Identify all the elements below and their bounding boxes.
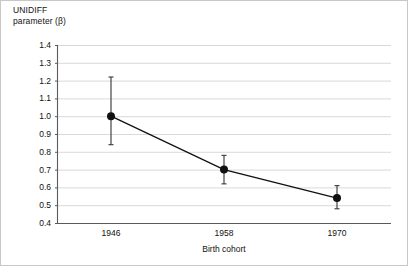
x-axis-title: Birth cohort (202, 244, 246, 254)
y-tick-label: 1.2 (39, 76, 51, 86)
y-tick-label: 0.6 (39, 182, 51, 192)
x-tick-label: 1970 (328, 228, 347, 238)
y-tick-label: 0.5 (39, 200, 51, 210)
data-point (333, 194, 341, 202)
error-bars (109, 77, 340, 209)
y-axis-tick-labels: 1.41.31.21.11.00.90.80.70.60.50.4 (39, 40, 51, 228)
y-tick-label: 1.1 (39, 93, 51, 103)
y-tick-label: 1.3 (39, 58, 51, 68)
y-tick-label: 0.9 (39, 129, 51, 139)
y-tick-label: 0.8 (39, 147, 51, 157)
y-tick-label: 1.0 (39, 111, 51, 121)
data-point (107, 112, 115, 120)
data-point (220, 166, 228, 174)
y-tick-label: 1.4 (39, 40, 51, 50)
y-tick-label: 0.7 (39, 165, 51, 175)
x-tick-label: 1958 (215, 228, 234, 238)
chart-figure: UNIDIFF parameter (β) 1.41.31.21.11.00.9… (0, 0, 408, 266)
x-tick-label: 1946 (102, 228, 121, 238)
y-tick-label: 0.4 (39, 218, 51, 228)
x-axis-tick-labels: 194619581970 (102, 228, 347, 238)
line-chart-plot: 1.41.31.21.11.00.90.80.70.60.50.4 194619… (1, 1, 408, 266)
